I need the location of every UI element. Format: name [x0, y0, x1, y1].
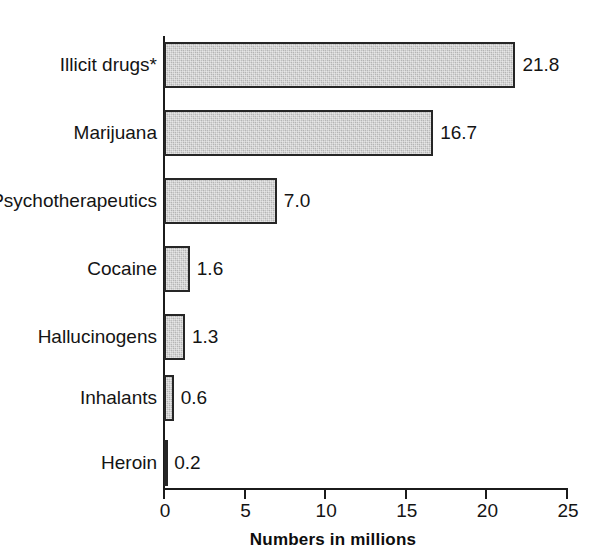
value-label: 1.3	[192, 314, 218, 360]
bar	[164, 375, 174, 421]
x-axis-tick-label: 15	[377, 500, 437, 522]
plot-area: Illicit drugs* 21.8 Marijuana 16.7 Psych…	[0, 0, 610, 559]
x-axis-tick	[405, 490, 407, 499]
bar-row-heroin: Heroin 0.2	[0, 440, 610, 486]
category-label: Inhalants	[80, 375, 157, 421]
bar	[164, 314, 185, 360]
x-axis-tick	[485, 490, 487, 499]
value-label: 21.8	[522, 42, 559, 88]
bar	[164, 178, 277, 224]
x-axis-tick-label: 25	[538, 500, 598, 522]
bar-row-cocaine: Cocaine 1.6	[0, 246, 610, 292]
category-label: Heroin	[101, 440, 157, 486]
value-label: 1.6	[197, 246, 223, 292]
value-label: 7.0	[284, 178, 310, 224]
bar	[164, 42, 515, 88]
x-axis-line	[163, 488, 568, 490]
value-label: 0.6	[181, 375, 207, 421]
x-axis-tick-label: 5	[216, 500, 276, 522]
category-label: Illicit drugs*	[60, 42, 157, 88]
bar	[164, 110, 433, 156]
x-axis-tick	[324, 490, 326, 499]
bar-chart: Illicit drugs* 21.8 Marijuana 16.7 Psych…	[0, 0, 610, 559]
bar-row-illicit-drugs: Illicit drugs* 21.8	[0, 42, 610, 88]
category-label: Cocaine	[87, 246, 157, 292]
bar	[164, 246, 190, 292]
bar-row-psychotherapeutics: Psychotherapeutics 7.0	[0, 178, 610, 224]
x-axis-title: Numbers in millions	[0, 530, 610, 550]
x-axis-tick-label: 10	[296, 500, 356, 522]
x-axis-tick	[566, 490, 568, 499]
category-label: Hallucinogens	[38, 314, 157, 360]
x-axis-tick-label: 0	[135, 500, 195, 522]
x-axis-tick	[244, 490, 246, 499]
bar-row-hallucinogens: Hallucinogens 1.3	[0, 314, 610, 360]
bar-row-marijuana: Marijuana 16.7	[0, 110, 610, 156]
category-label: Marijuana	[74, 110, 157, 156]
value-label: 0.2	[174, 440, 200, 486]
bar	[164, 440, 168, 486]
x-axis-tick	[163, 490, 165, 499]
value-label: 16.7	[440, 110, 477, 156]
category-label: Psychotherapeutics	[0, 178, 157, 224]
x-axis-tick-label: 20	[457, 500, 517, 522]
bar-row-inhalants: Inhalants 0.6	[0, 375, 610, 421]
